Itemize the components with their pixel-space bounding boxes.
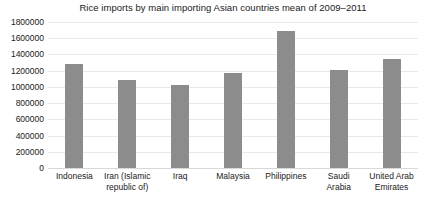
chart-title: Rice imports by main importing Asian cou… (0, 2, 424, 13)
x-axis-tick-label-line: Iraq (154, 171, 207, 182)
bar-chart-figure: Rice imports by main importing Asian cou… (0, 0, 424, 209)
x-axis-tick-label: Iraq (154, 171, 207, 182)
y-axis-tick-label: 800000 (0, 99, 44, 108)
y-axis-tick-label: 1200000 (0, 67, 44, 76)
y-axis-tick-label: 1800000 (0, 18, 44, 27)
y-axis-tick-label: 200000 (0, 148, 44, 157)
bar (277, 31, 295, 168)
x-axis-tick-label-line: Saudi (312, 171, 365, 182)
gridline (48, 168, 418, 169)
gridline (48, 71, 418, 72)
x-axis-tick-label-line: Arabia (312, 182, 365, 193)
plot-area (48, 22, 418, 168)
x-axis-tick-label-line: Indonesia (48, 171, 101, 182)
gridline (48, 38, 418, 39)
x-axis-tick-label-line: Iran (Islamic (101, 171, 154, 182)
bar (224, 73, 242, 168)
bar (171, 85, 189, 168)
bar (65, 64, 83, 168)
bar (383, 59, 401, 168)
y-axis-tick-label: 1400000 (0, 50, 44, 59)
x-axis-tick-label: Iran (Islamicrepublic of) (101, 171, 154, 193)
x-axis: IndonesiaIran (Islamicrepublic of)IraqMa… (48, 171, 418, 207)
bar (330, 70, 348, 168)
gridline (48, 54, 418, 55)
gridline (48, 22, 418, 23)
x-axis-tick-label-line: United Arab (365, 171, 418, 182)
x-axis-tick-label: United ArabEmirates (365, 171, 418, 193)
x-axis-tick-label: Philippines (259, 171, 312, 182)
x-axis-tick-label-line: Malaysia (207, 171, 260, 182)
y-axis-tick-label: 600000 (0, 115, 44, 124)
x-axis-tick-label-line: republic of) (101, 182, 154, 193)
x-axis-tick-label-line: Emirates (365, 182, 418, 193)
x-axis-tick-label-line: Philippines (259, 171, 312, 182)
y-axis-tick-label: 400000 (0, 132, 44, 141)
bar (118, 80, 136, 168)
x-axis-tick-label: SaudiArabia (312, 171, 365, 193)
x-axis-tick-label: Indonesia (48, 171, 101, 182)
y-axis-tick-label: 1600000 (0, 34, 44, 43)
y-axis-tick-label: 0 (0, 164, 44, 173)
x-axis-tick-label: Malaysia (207, 171, 260, 182)
y-axis-tick-label: 1000000 (0, 83, 44, 92)
